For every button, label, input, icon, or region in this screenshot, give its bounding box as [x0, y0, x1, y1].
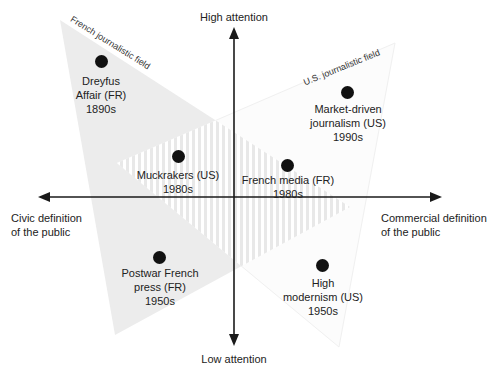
point-muckrakers-dot	[172, 150, 185, 163]
label-line: Market-driven	[302, 102, 394, 116]
label-line: 1950s	[280, 304, 366, 318]
arrow-right-icon	[430, 192, 442, 202]
label-line: Postwar French	[118, 266, 202, 280]
axis-label-bottom: Low attention	[194, 352, 274, 366]
label-line: modernism (US)	[280, 290, 366, 304]
axis-label-left-line2: of the public	[11, 225, 82, 239]
point-market-driven-label: Market-driven journalism (US) 1990s	[302, 102, 394, 144]
label-line: Dreyfus	[61, 74, 141, 88]
label-line: High	[280, 276, 366, 290]
point-muckrakers-label: Muckrakers (US) 1980s	[132, 168, 224, 196]
point-postwar-french-label: Postwar French press (FR) 1950s	[118, 266, 202, 308]
point-high-modernism-dot	[316, 259, 329, 272]
label-line: 1950s	[118, 294, 202, 308]
point-dreyfus-dot	[95, 55, 108, 68]
arrow-left-icon	[38, 192, 50, 202]
label-line: press (FR)	[118, 280, 202, 294]
point-market-driven-dot	[341, 86, 354, 99]
axis-label-top: High attention	[194, 10, 274, 24]
axis-label-right-line2: of the public	[381, 225, 487, 239]
axis-label-right: Commercial definition of the public	[381, 211, 487, 239]
point-french-media-label: French media (FR) 1980s	[240, 173, 336, 201]
label-line: Affair (FR)	[61, 88, 141, 102]
axis-label-left-line1: Civic definition	[11, 211, 82, 225]
point-high-modernism-label: High modernism (US) 1950s	[280, 276, 366, 318]
label-line: Muckrakers (US)	[132, 168, 224, 182]
label-line: 1980s	[132, 182, 224, 196]
axis-label-right-line1: Commercial definition	[381, 211, 487, 225]
arrow-down-icon	[229, 334, 239, 346]
label-line: French media (FR)	[240, 173, 336, 187]
label-line: journalism (US)	[302, 116, 394, 130]
point-postwar-french-dot	[153, 251, 166, 264]
point-french-media-dot	[281, 159, 294, 172]
axis-label-left: Civic definition of the public	[11, 211, 82, 239]
point-dreyfus-label: Dreyfus Affair (FR) 1890s	[61, 74, 141, 116]
label-line: 1890s	[61, 102, 141, 116]
arrow-up-icon	[229, 27, 239, 39]
label-line: 1980s	[240, 187, 336, 201]
label-line: 1990s	[302, 130, 394, 144]
